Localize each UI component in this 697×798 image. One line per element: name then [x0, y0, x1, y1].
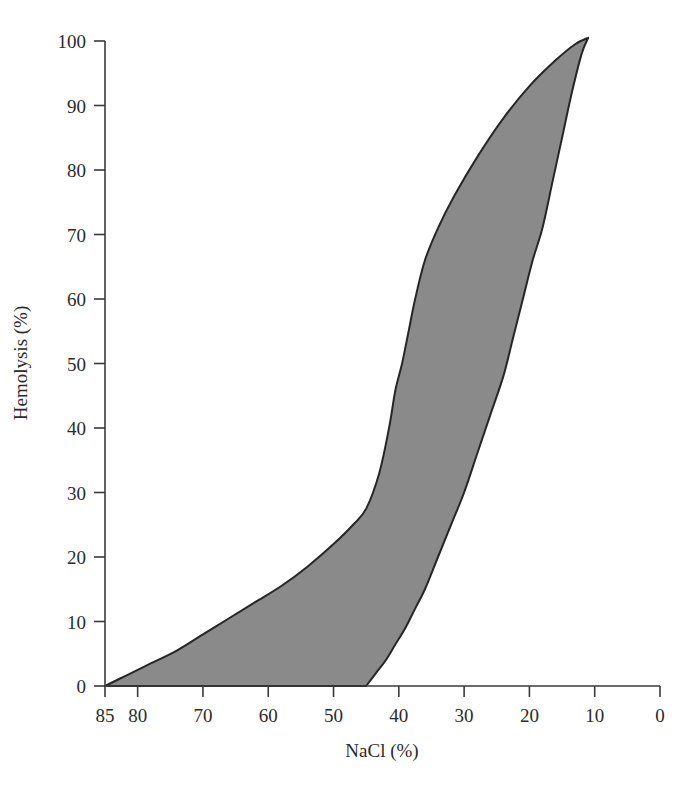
- hemolysis-band-area: [105, 38, 588, 686]
- y-axis-tick-label: 30: [67, 483, 86, 504]
- y-axis-tick-label: 0: [77, 676, 87, 697]
- x-axis-tick-label: 70: [193, 705, 212, 726]
- y-axis-tick-label: 40: [67, 418, 86, 439]
- x-axis-tick-label: 40: [389, 705, 408, 726]
- x-axis-tick-label: 50: [324, 705, 343, 726]
- y-axis-tick-label: 20: [67, 547, 86, 568]
- x-axis-tick-label: 30: [455, 705, 474, 726]
- x-axis-tick-label: 0: [655, 705, 665, 726]
- y-axis-tick-label: 80: [67, 160, 86, 181]
- x-axis-tick-label: 10: [585, 705, 604, 726]
- y-axis-tick-label: 90: [67, 96, 86, 117]
- y-axis-title: Hemolysis (%): [10, 306, 32, 421]
- osmotic-fragility-chart: 8580706050403020100 01020304050607080901…: [0, 0, 697, 798]
- x-axis-title: NaCl (%): [345, 740, 418, 762]
- y-axis-tick-labels: 0102030405060708090100: [58, 31, 87, 697]
- x-axis-tick-label: 80: [128, 705, 147, 726]
- x-axis-tick-label: 20: [520, 705, 539, 726]
- y-axis-tick-label: 50: [67, 354, 86, 375]
- chart-canvas: 8580706050403020100 01020304050607080901…: [0, 0, 697, 798]
- y-axis-tick-label: 10: [67, 612, 86, 633]
- x-axis-tick-label: 85: [96, 705, 115, 726]
- y-axis-tick-label: 100: [58, 31, 87, 52]
- y-axis-tick-group: [94, 41, 105, 686]
- x-axis-tick-labels: 8580706050403020100: [96, 705, 665, 726]
- x-axis-tick-label: 60: [259, 705, 278, 726]
- x-axis-tick-group: [105, 686, 660, 697]
- y-axis-tick-label: 60: [67, 289, 86, 310]
- y-axis-tick-label: 70: [67, 225, 86, 246]
